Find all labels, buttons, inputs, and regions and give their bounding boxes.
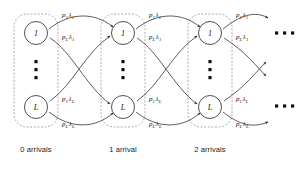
node-stage0-top-label: 1 xyxy=(34,29,38,38)
vertical-ellipsis-stage2 xyxy=(208,60,211,79)
vertical-ellipsis-stage1 xyxy=(121,60,124,79)
rate-label-s1-top-lower: pLλ1 xyxy=(148,33,161,42)
rate-label-s2-top-lower: pLλ1 xyxy=(235,33,248,42)
continuation-ellipsis-bottom xyxy=(275,104,294,107)
rate-label-s2-bot-lower: pLλL xyxy=(235,120,249,129)
diagram-root: 1 L 1 L 1 L xyxy=(0,0,307,171)
node-stage0-bottom-label: L xyxy=(33,103,39,112)
rate-label-s1-top-upper: p1λ1 xyxy=(148,11,161,20)
node-stage1-top-label: 1 xyxy=(121,29,125,38)
rate-label-s1-bot-lower: pLλL xyxy=(148,120,162,129)
edge-s0bot-s1bot xyxy=(49,112,113,125)
rate-label-s0-top-upper: p1λ1 xyxy=(61,11,74,20)
continuation-ellipsis-top xyxy=(275,31,294,34)
stage-caption-0: 0 arrivals xyxy=(6,145,66,154)
edge-s2top-next-bot xyxy=(224,38,266,76)
node-stage2-top-label: 1 xyxy=(208,29,212,38)
rate-label-s2-top-upper: p1λ1 xyxy=(235,11,248,20)
stage-caption-2: 2 arrivals xyxy=(180,145,240,154)
edge-s1bot-s2bot xyxy=(136,112,200,125)
rate-label-s0-bot-lower: pLλL xyxy=(61,120,75,129)
stage-caption-1: 1 arrival xyxy=(93,145,153,154)
rate-label-s2-bot-upper: p1λL xyxy=(235,95,249,104)
rate-label-s1-bot-upper: p1λL xyxy=(148,95,162,104)
edge-s1top-s2top xyxy=(136,16,200,29)
rate-label-s0-top-lower: pLλ1 xyxy=(61,33,74,42)
node-stage1-bottom-label: L xyxy=(120,103,126,112)
edge-s0top-s1top xyxy=(49,16,113,29)
node-stage2-bottom-label: L xyxy=(207,103,213,112)
vertical-ellipsis-stage0 xyxy=(34,60,37,79)
rate-label-s0-bot-upper: p1λL xyxy=(61,95,75,104)
